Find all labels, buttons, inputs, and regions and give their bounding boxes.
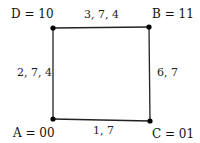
- node-label-d: D = 10: [11, 8, 54, 20]
- node-dot-b: [146, 24, 151, 29]
- node-label-b: B = 11: [152, 8, 194, 20]
- node-label-c: C = 01: [152, 128, 194, 140]
- edge-label-right: 6, 7: [157, 67, 178, 78]
- edge-label-bottom: 1, 7: [93, 125, 114, 136]
- edge-top: [53, 27, 149, 28]
- node-dot-c: [147, 118, 152, 123]
- edge-label-top: 3, 7, 4: [84, 9, 119, 20]
- edge-label-left: 2, 7, 4: [17, 67, 52, 78]
- node-label-a: A = 00: [13, 127, 55, 139]
- node-dot-d: [50, 25, 55, 30]
- edge-right: [149, 27, 150, 121]
- edge-bottom: [53, 119, 150, 121]
- node-dot-a: [50, 116, 55, 121]
- state-diagram: D = 10 B = 11 A = 00 C = 01 3, 7, 4 2, 7…: [0, 0, 200, 143]
